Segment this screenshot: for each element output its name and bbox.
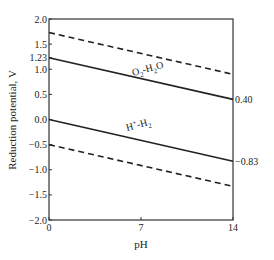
y-tick-label: 1.23 xyxy=(30,52,48,63)
chart-svg: 2.01.51.231.00.50.0−0.5−1.0−1.5−2.0 0714… xyxy=(0,0,274,260)
h-h2-label: H+-H2 xyxy=(124,115,153,136)
right-value-label: 0.40 xyxy=(235,94,253,105)
x-axis-ticks: 0714 xyxy=(47,217,239,233)
right-value-label: −0.83 xyxy=(235,156,258,167)
x-tick-label: 14 xyxy=(228,222,238,233)
series-line xyxy=(49,145,233,187)
y-tick-label: 0.0 xyxy=(35,114,48,125)
series-lines xyxy=(49,33,233,187)
y-tick-label: −1.5 xyxy=(29,189,47,200)
x-tick-label: 7 xyxy=(139,222,144,233)
y-tick-label: 0.5 xyxy=(35,89,48,100)
y-tick-label: −2.0 xyxy=(29,215,47,226)
y-tick-label: 2.0 xyxy=(35,14,48,25)
right-annotations: 0.40−0.83 xyxy=(235,94,258,167)
y-tick-label: −1.0 xyxy=(29,164,47,175)
x-tick-label: 0 xyxy=(47,222,52,233)
y-axis-title: Reduction potential, V xyxy=(6,70,18,170)
x-axis-title: pH xyxy=(134,238,148,250)
y-tick-label: 1.0 xyxy=(35,64,48,75)
y-tick-label: 1.5 xyxy=(35,39,48,50)
y-tick-label: −0.5 xyxy=(29,139,47,150)
